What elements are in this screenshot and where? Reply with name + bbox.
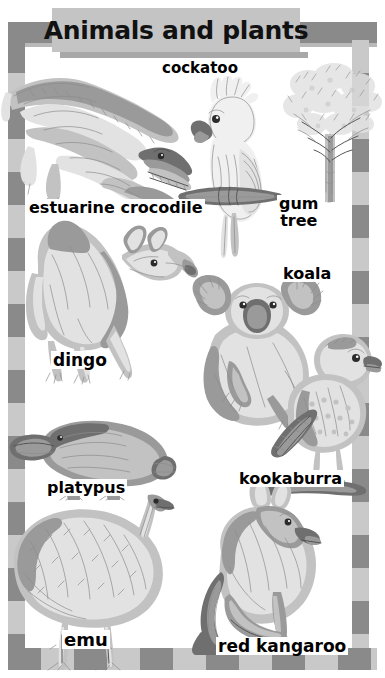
label-dingo: dingo: [51, 351, 109, 369]
label-cockatoo: cockatoo: [160, 60, 240, 76]
label-koala: koala: [281, 265, 333, 282]
label-red-kangaroo: red kangaroo: [216, 637, 348, 655]
checker-square: [352, 271, 369, 304]
title-banner-shadow: [60, 52, 308, 58]
label-gum-tree: gum tree: [277, 195, 321, 230]
label-estuarine-crocodile: estuarine crocodile: [27, 199, 205, 216]
gum-tree-illustration: [282, 62, 382, 202]
crocodile-illustration: [0, 60, 200, 210]
label-kookaburra: kookaburra: [237, 470, 344, 487]
illustrated-page: cockatoo estuarine crocodile gum tree ko…: [0, 0, 385, 678]
title-banner: Animals and plants: [52, 8, 300, 52]
label-platypus: platypus: [45, 479, 127, 496]
checker-square: [371, 648, 377, 670]
checker-square: [352, 205, 369, 238]
kangaroo-illustration: [185, 480, 365, 655]
checker-square: [352, 238, 369, 271]
page-title: Animals and plants: [44, 16, 309, 45]
label-emu: emu: [62, 630, 110, 649]
